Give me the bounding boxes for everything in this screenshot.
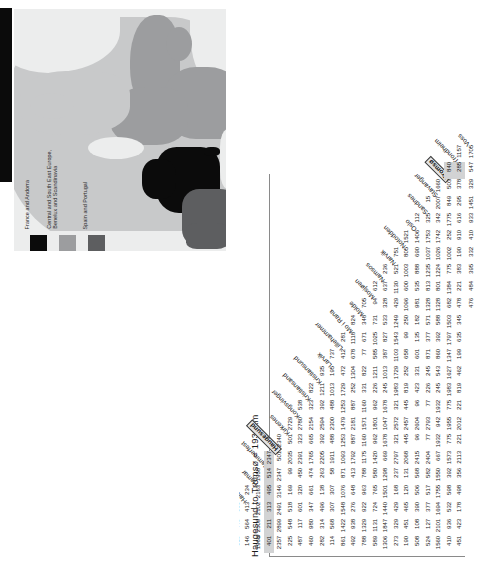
matrix-cell: 1479 xyxy=(338,417,349,434)
matrix-cell: 332 xyxy=(466,247,477,264)
matrix-cell: 1253 xyxy=(338,434,349,451)
matrix-cell: 775 xyxy=(444,264,455,281)
matrix-cell: 731 xyxy=(370,315,381,332)
matrix-cell: 1298 xyxy=(380,468,391,485)
matrix-cell: 871 xyxy=(338,468,349,485)
matrix-cell: 120 xyxy=(401,485,412,502)
rotation-wrapper: Haugesund to Tromsø = 1932km 578Flekkefj… xyxy=(239,0,478,575)
legend-swatch-france-andorra xyxy=(30,235,47,251)
matrix-cell: 705 xyxy=(359,298,370,315)
region-france-corsica xyxy=(204,147,220,156)
matrix-cell: 1160 xyxy=(359,400,370,417)
matrix-cell: 524 xyxy=(423,536,434,553)
matrix-cell: 661 xyxy=(306,485,317,502)
matrix-cell: 1792 xyxy=(348,451,359,468)
matrix-cell: 2101 xyxy=(433,519,444,536)
matrix-cell: 2102 xyxy=(253,502,264,519)
matrix-cell: 600 xyxy=(401,281,412,298)
legend-label-central-south-east-europe: Central and South East Europe, Benelux a… xyxy=(46,150,59,229)
matrix-cell: 1076 xyxy=(338,485,349,502)
matrix-cell: 323 xyxy=(295,434,306,451)
matrix-cell: 933 xyxy=(466,213,477,230)
matrix-cell: 195 xyxy=(327,366,338,383)
matrix-cell: 1224 xyxy=(433,264,444,281)
matrix-cell: 1306 xyxy=(380,536,391,553)
matrix-cell: 861 xyxy=(338,536,349,553)
matrix-cell: 1983 xyxy=(391,383,402,400)
matrix-cell: 1328 xyxy=(433,298,444,315)
legend-swatch-central-south-east-europe xyxy=(59,235,76,251)
matrix-cell: 616 xyxy=(454,213,465,230)
matrix-cell: 77 xyxy=(359,349,370,366)
matrix-cell: 737 xyxy=(327,349,338,366)
matrix-cell: 1550 xyxy=(433,468,444,485)
matrix-cell: 221 xyxy=(454,400,465,417)
matrix-cell: 1847 xyxy=(380,519,391,536)
matrix-cell: 342 xyxy=(433,213,444,230)
matrix-cell: 1013 xyxy=(327,383,338,400)
matrix-cell: 543 xyxy=(433,366,444,383)
matrix-cell: 658 xyxy=(401,349,412,366)
frame-left-rule xyxy=(269,556,465,557)
matrix-cell: 518 xyxy=(285,502,296,519)
matrix-cell: 724 xyxy=(370,502,381,519)
matrix-cell: 131 xyxy=(401,468,412,485)
matrix-cell: 2509 xyxy=(253,519,264,536)
matrix-cell: 942 xyxy=(433,417,444,434)
matrix-cell: 2007 xyxy=(433,196,444,213)
matrix-cell: 1755 xyxy=(433,485,444,502)
matrix-cell: 3146 xyxy=(274,485,285,502)
matrix-cell: 226 xyxy=(423,383,434,400)
matrix-cell: 910 xyxy=(454,230,465,247)
matrix-cell: 501 xyxy=(274,451,285,468)
matrix-cell: 2068 xyxy=(401,451,412,468)
matrix-cell: 521 xyxy=(391,264,402,281)
matrix-cell: 1422 xyxy=(338,519,349,536)
matrix-cell: 168 xyxy=(391,485,402,502)
matrix-cell: 2357 xyxy=(274,536,285,553)
region-portugal xyxy=(186,223,226,249)
legend-label-line: Benelux and Scandinavia xyxy=(53,150,59,229)
matrix-cell: 245 xyxy=(433,383,444,400)
matrix-cell: 1347 xyxy=(444,349,455,366)
matrix-cell: 2035 xyxy=(285,451,296,468)
matrix-cell: 665 xyxy=(306,434,317,451)
matrix-cell: 1175 xyxy=(359,451,370,468)
matrix-cell: 77 xyxy=(423,400,434,417)
matrix-cell: 801 xyxy=(433,281,444,298)
matrix-cell: 2300 xyxy=(327,417,338,434)
matrix-cell: 533 xyxy=(380,315,391,332)
map-legend: France and Andorra Central and South Eas… xyxy=(30,137,108,251)
matrix-cell: 819 xyxy=(454,383,465,400)
matrix-cell: 423 xyxy=(454,519,465,536)
matrix-cell: 328 xyxy=(380,298,391,315)
matrix-cell: 1548 xyxy=(338,502,349,519)
matrix-cell: 329 xyxy=(391,519,402,536)
matrix-cell: 465 xyxy=(401,502,412,519)
matrix-cell: 1571 xyxy=(359,417,370,434)
matrix-cell: 1211 xyxy=(317,383,328,400)
matrix-cell: 117 xyxy=(295,519,306,536)
matrix-cell: 413 xyxy=(242,502,253,519)
matrix-cell: 501 xyxy=(285,434,296,451)
matrix-cell: 678 xyxy=(348,349,359,366)
matrix-cell: 1235 xyxy=(423,264,434,281)
matrix-cell: 2491 xyxy=(274,502,285,519)
matrix-cell: 1660 xyxy=(433,179,444,196)
matrix-cell: 245 xyxy=(423,366,434,383)
matrix-cell: 1753 xyxy=(423,230,434,247)
matrix-cell: 2340 xyxy=(274,434,285,451)
matrix-cell: 1406 xyxy=(412,230,423,247)
matrix-cell: 669 xyxy=(380,451,391,468)
matrix-cell: 1729 xyxy=(391,366,402,383)
matrix-cell: 1705 xyxy=(466,145,477,162)
matrix-cell: 99 xyxy=(285,468,296,485)
map-canvas: France and Andorra Central and South Eas… xyxy=(14,9,226,251)
matrix-cell: 392 xyxy=(317,400,328,417)
matrix-cell: 487 xyxy=(295,536,306,553)
matrix-cell: 2780 xyxy=(295,417,306,434)
matrix-cell: 276 xyxy=(348,502,359,519)
matrix-cell: 2205 xyxy=(317,451,328,468)
matrix-cell: 127 xyxy=(423,519,434,536)
matrix-cell: 2793 xyxy=(423,417,434,434)
